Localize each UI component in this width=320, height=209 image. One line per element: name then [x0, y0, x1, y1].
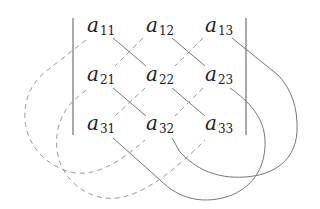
- entry-a12: a12: [146, 15, 174, 37]
- entry-a21: a21: [87, 64, 115, 86]
- solid-a13-outer-loop-a32: [172, 38, 297, 177]
- entry-a11: a11: [87, 15, 115, 37]
- solid-a23-inner-loop-a31: [113, 88, 265, 200]
- entry-a33: a33: [205, 113, 233, 135]
- entry-a31: a31: [87, 113, 115, 135]
- dashed-a12-a21: [115, 38, 143, 66]
- entry-a13: a13: [205, 15, 233, 37]
- dashed-a11-outer-loop-a32: [25, 40, 145, 173]
- entry-a22: a22: [146, 64, 174, 86]
- dashed-a21-inner-loop-a33: [57, 90, 205, 198]
- dashed-a13-a22: [175, 38, 203, 66]
- dashed-a23-a32: [175, 88, 203, 116]
- entry-a32: a32: [146, 113, 174, 135]
- entry-a23: a23: [205, 64, 233, 86]
